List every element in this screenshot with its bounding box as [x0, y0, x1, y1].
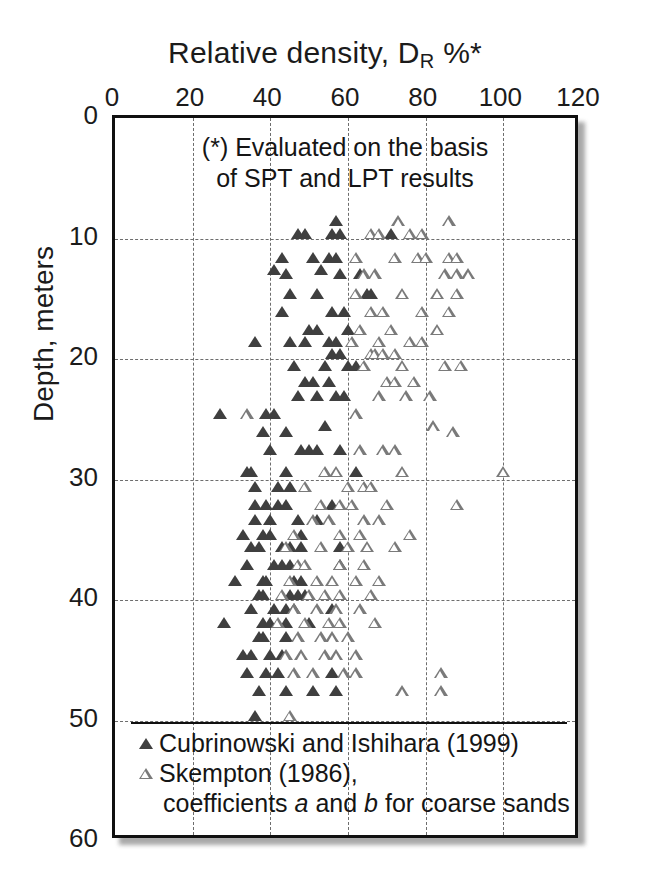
legend-marker-filled-triangle-icon	[133, 728, 159, 758]
data-point-filled-triangle-icon	[252, 685, 266, 696]
data-point-filled-triangle-icon	[333, 348, 347, 359]
data-point-open-triangle-icon	[395, 360, 409, 371]
legend-label-skempton: Skempton (1986),	[159, 758, 358, 788]
data-point-open-triangle-icon	[349, 575, 363, 586]
data-point-open-triangle-icon	[314, 541, 328, 552]
data-point-open-triangle-icon	[454, 360, 468, 371]
data-point-open-triangle-icon	[298, 481, 312, 492]
data-point-open-triangle-icon	[380, 499, 394, 510]
data-point-filled-triangle-icon	[322, 376, 336, 387]
data-point-open-triangle-icon	[353, 529, 367, 540]
data-point-open-triangle-icon	[310, 575, 324, 586]
data-point-open-triangle-icon	[349, 408, 363, 419]
data-point-filled-triangle-icon	[279, 466, 293, 477]
data-point-open-triangle-icon	[345, 499, 359, 510]
data-point-open-triangle-icon	[322, 514, 336, 525]
data-point-open-triangle-icon	[372, 514, 386, 525]
data-point-open-triangle-icon	[341, 541, 355, 552]
data-point-filled-triangle-icon	[318, 420, 332, 431]
legend-coeff-mid: and	[308, 789, 364, 817]
data-point-filled-triangle-icon	[291, 514, 305, 525]
data-point-filled-triangle-icon	[333, 268, 347, 279]
data-point-open-triangle-icon	[368, 268, 382, 279]
data-point-filled-triangle-icon	[306, 685, 320, 696]
data-point-filled-triangle-icon	[291, 390, 305, 401]
gridline-horizontal	[115, 239, 575, 240]
data-point-open-triangle-icon	[450, 288, 464, 299]
data-point-open-triangle-icon	[395, 685, 409, 696]
data-point-open-triangle-icon	[329, 603, 343, 614]
data-point-filled-triangle-icon	[279, 499, 293, 510]
legend-item-skempton: Skempton (1986),	[133, 758, 575, 788]
data-point-open-triangle-icon	[310, 603, 324, 614]
data-point-filled-triangle-icon	[228, 575, 242, 586]
data-point-open-triangle-icon	[287, 603, 301, 614]
x-tick-label: 120	[556, 82, 599, 113]
data-point-open-triangle-icon	[442, 306, 456, 317]
data-point-open-triangle-icon	[357, 559, 371, 570]
data-point-open-triangle-icon	[279, 649, 293, 660]
y-tick-label: 40	[69, 582, 98, 613]
data-point-open-triangle-icon	[329, 466, 343, 477]
y-tick-label: 30	[69, 461, 98, 492]
data-point-filled-triangle-icon	[213, 408, 227, 419]
legend-coeff-b: b	[364, 789, 378, 817]
data-point-filled-triangle-icon	[337, 390, 351, 401]
x-tick-label: 100	[479, 82, 522, 113]
data-point-filled-triangle-icon	[256, 426, 270, 437]
data-point-filled-triangle-icon	[333, 444, 347, 455]
data-point-filled-triangle-icon	[310, 390, 324, 401]
data-point-open-triangle-icon	[434, 667, 448, 678]
data-point-filled-triangle-icon	[263, 444, 277, 455]
data-point-open-triangle-icon	[368, 617, 382, 628]
data-point-open-triangle-icon	[372, 390, 386, 401]
x-tick-label: 80	[408, 82, 437, 113]
data-point-open-triangle-icon	[345, 336, 359, 347]
data-point-filled-triangle-icon	[217, 617, 231, 628]
data-point-open-triangle-icon	[333, 589, 347, 600]
data-point-open-triangle-icon	[395, 288, 409, 299]
data-point-open-triangle-icon	[291, 631, 305, 642]
x-tick-label: 40	[253, 82, 282, 113]
data-point-open-triangle-icon	[364, 589, 378, 600]
data-point-filled-triangle-icon	[279, 685, 293, 696]
data-point-open-triangle-icon	[415, 306, 429, 317]
data-point-open-triangle-icon	[341, 481, 355, 492]
data-point-filled-triangle-icon	[248, 481, 262, 492]
legend-coeff-post: for coarse sands	[378, 789, 570, 817]
data-point-filled-triangle-icon	[248, 514, 262, 525]
data-point-filled-triangle-icon	[275, 306, 289, 317]
data-point-filled-triangle-icon	[248, 710, 262, 721]
data-point-filled-triangle-icon	[256, 631, 270, 642]
data-point-open-triangle-icon	[372, 228, 386, 239]
data-point-filled-triangle-icon	[298, 228, 312, 239]
y-tick-label: 60	[69, 823, 98, 854]
data-point-open-triangle-icon	[399, 390, 413, 401]
plot-inner: (*) Evaluated on the basis of SPT and LP…	[115, 118, 575, 835]
data-point-open-triangle-icon	[353, 603, 367, 614]
data-point-open-triangle-icon	[298, 559, 312, 570]
data-point-open-triangle-icon	[287, 667, 301, 678]
data-point-filled-triangle-icon	[329, 252, 343, 263]
data-point-open-triangle-icon	[360, 541, 374, 552]
data-point-open-triangle-icon	[419, 252, 433, 263]
data-point-open-triangle-icon	[415, 228, 429, 239]
legend-item-cubrinowski: Cubrinowski and Ishihara (1999)	[133, 728, 575, 758]
gridline-horizontal	[115, 600, 575, 601]
x-tick-label: 60	[331, 82, 360, 113]
data-point-open-triangle-icon	[388, 348, 402, 359]
data-point-filled-triangle-icon	[279, 268, 293, 279]
data-point-filled-triangle-icon	[310, 288, 324, 299]
data-point-open-triangle-icon	[442, 215, 456, 226]
data-point-filled-triangle-icon	[240, 667, 254, 678]
y-tick-label: 10	[69, 220, 98, 251]
chart-title-main: Relative density, D	[168, 36, 420, 69]
data-point-open-triangle-icon	[333, 559, 347, 570]
data-point-open-triangle-icon	[240, 408, 254, 419]
y-tick-label: 0	[84, 100, 98, 131]
legend-coeff-a: a	[295, 789, 309, 817]
data-point-open-triangle-icon	[306, 514, 320, 525]
legend-label-skempton-continued: coefficients a and b for coarse sands	[133, 788, 575, 818]
data-point-filled-triangle-icon	[271, 667, 285, 678]
data-point-open-triangle-icon	[372, 336, 386, 347]
